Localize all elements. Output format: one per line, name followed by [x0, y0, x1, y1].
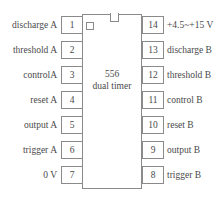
pin-box-9[interactable]: 9 — [142, 141, 164, 159]
pin-box-13[interactable]: 13 — [142, 41, 164, 59]
pin-box-4[interactable]: 4 — [61, 91, 83, 109]
pin-label-7: 0 V — [0, 166, 57, 184]
pin-label-13: discharge B — [167, 41, 224, 59]
pin-box-8[interactable]: 8 — [142, 166, 164, 184]
chip-part-number: 556 — [82, 68, 142, 80]
pin-label-4: reset A — [0, 91, 57, 109]
pin-label-12: threshold B — [167, 66, 224, 84]
pin-label-9: output B — [167, 141, 224, 159]
pin-box-5[interactable]: 5 — [61, 116, 83, 134]
pin-box-12[interactable]: 12 — [142, 66, 164, 84]
pin-box-10[interactable]: 10 — [142, 116, 164, 134]
pin-box-11[interactable]: 11 — [142, 91, 164, 109]
pin-box-1[interactable]: 1 — [61, 16, 83, 34]
pin-label-5: output A — [0, 116, 57, 134]
chip-body-outline — [82, 14, 142, 189]
pin-box-14[interactable]: 14 — [142, 16, 164, 34]
pin-label-1: discharge A — [0, 16, 57, 34]
pin-label-3: controlA — [0, 66, 57, 84]
pin-label-6: trigger A — [0, 141, 57, 159]
pin-box-6[interactable]: 6 — [61, 141, 83, 159]
pin-box-3[interactable]: 3 — [61, 66, 83, 84]
chip-center-text: 556 dual timer — [82, 68, 142, 92]
pin-label-2: threshold A — [0, 41, 57, 59]
pin-box-7[interactable]: 7 — [61, 166, 83, 184]
pin-label-11: control B — [167, 91, 224, 109]
pin-label-8: trigger B — [167, 166, 224, 184]
ic-pinout-diagram: 556 dual timer 1 2 3 4 5 6 7 discharge A… — [0, 0, 224, 200]
pin1-dot-icon — [86, 22, 94, 30]
notch-indicator-icon — [110, 13, 119, 22]
pin-box-2[interactable]: 2 — [61, 41, 83, 59]
pin-label-14: +4.5~+15 V — [167, 16, 224, 34]
pin-label-10: reset B — [167, 116, 224, 134]
chip-description: dual timer — [82, 80, 142, 92]
